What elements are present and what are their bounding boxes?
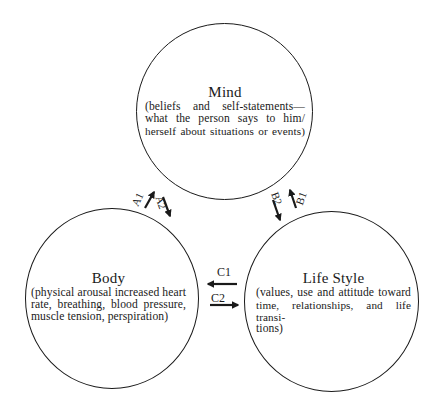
- arrow-a1: [145, 192, 154, 208]
- label-c1: C1: [217, 267, 231, 278]
- label-c2: C2: [211, 293, 225, 304]
- diagram-canvas: Mind (beliefs and self-statements— what …: [0, 0, 441, 414]
- arrows-layer: [0, 0, 441, 414]
